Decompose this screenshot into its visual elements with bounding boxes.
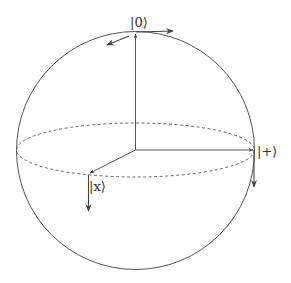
top-tangent-arrow-left <box>107 36 129 45</box>
label-ket-plus: |+⟩ <box>257 144 277 159</box>
label-ket-x: |x⟩ <box>89 179 106 194</box>
bloch-sphere-diagram: |0⟩ |+⟩ |x⟩ <box>0 0 291 283</box>
y-axis <box>90 150 136 173</box>
top-tangent-arrow-right <box>136 31 173 32</box>
label-ket-0: |0⟩ <box>130 15 148 30</box>
